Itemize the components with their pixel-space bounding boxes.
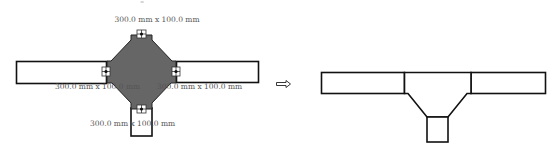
left-duct-segment[interactable] [17,62,107,84]
cross-fitting-body[interactable] [107,35,176,109]
tee-branch-segment[interactable] [427,117,448,142]
tee-right-segment[interactable] [471,73,546,94]
tee-body[interactable] [405,73,472,118]
dimension-label-right: 300.0 mm x 100.0 mm [157,82,242,91]
top-mark: – [140,0,144,6]
cross-fitting-diagram: 300.0 mm x 100.0 mm 300.0 mm x 100.0 mm … [17,15,259,136]
grip-bottom[interactable] [137,105,146,113]
diagram-canvas: – [0,0,557,158]
dimension-label-bottom: 300.0 mm x 100.0 mm [90,119,175,128]
grip-top[interactable] [137,30,146,38]
grip-left[interactable] [102,67,110,76]
tee-fitting-diagram [322,73,546,143]
dimension-label-top: 300.0 mm x 100.0 mm [114,15,199,24]
right-outline-arrow-icon [277,81,291,88]
right-duct-segment[interactable] [177,62,259,83]
grip-right[interactable] [172,67,180,76]
dimension-label-left: 300.0 mm x 100.0 mm [55,82,140,91]
tee-left-segment[interactable] [322,73,405,94]
